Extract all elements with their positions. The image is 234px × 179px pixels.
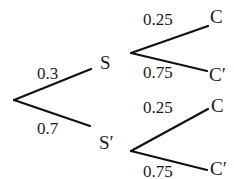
node-S-prime-C-prime: C′ xyxy=(210,158,227,179)
node-S: S xyxy=(100,52,111,73)
prob-label-S-C-prime: 0.75 xyxy=(143,63,173,82)
branch-S-to-C xyxy=(131,26,208,53)
node-S-C-prime: C′ xyxy=(209,64,226,85)
node-S-C: C xyxy=(210,6,223,27)
prob-label-S-prime-C: 0.25 xyxy=(143,98,173,117)
prob-label-S-prime: 0.7 xyxy=(37,119,59,138)
probability-tree-diagram: 0.3 0.7 S S′ 0.25 0.75 C C′ 0.25 0.75 C … xyxy=(0,0,234,179)
node-S-prime-C: C xyxy=(211,95,224,116)
prob-label-S-C: 0.25 xyxy=(143,10,173,29)
prob-label-S-prime-C-prime: 0.75 xyxy=(143,162,173,179)
prob-label-S: 0.3 xyxy=(37,64,58,83)
node-S-prime: S′ xyxy=(99,132,114,153)
